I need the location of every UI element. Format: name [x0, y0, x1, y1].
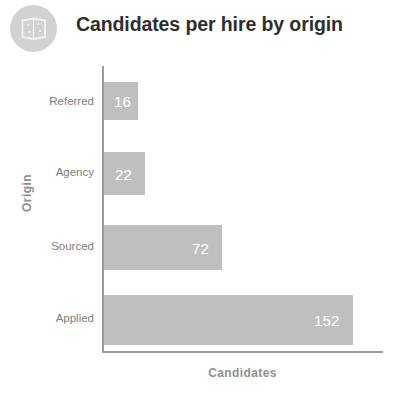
chart-page: Candidates per hire by origin Referred 1…	[0, 0, 399, 402]
category-label-referred: Referred	[22, 95, 94, 107]
bar-value-agency: 22	[115, 165, 132, 182]
bar-row: 22	[104, 152, 364, 195]
bar-chart: Referred 16 Agency 22 Sourced 72 Applied…	[0, 0, 399, 402]
y-axis-title: Origin	[20, 158, 34, 228]
category-label-sourced: Sourced	[22, 240, 94, 252]
x-axis-title: Candidates	[102, 366, 383, 380]
bar-row: 72	[104, 225, 364, 270]
bar-value-sourced: 72	[192, 239, 209, 256]
bar-value-referred: 16	[114, 93, 131, 110]
bar-value-applied: 152	[314, 312, 340, 329]
x-axis-line	[102, 351, 383, 353]
category-label-applied: Applied	[22, 312, 94, 324]
bar-row: 16	[104, 82, 364, 120]
bar-row: 152	[104, 295, 364, 345]
